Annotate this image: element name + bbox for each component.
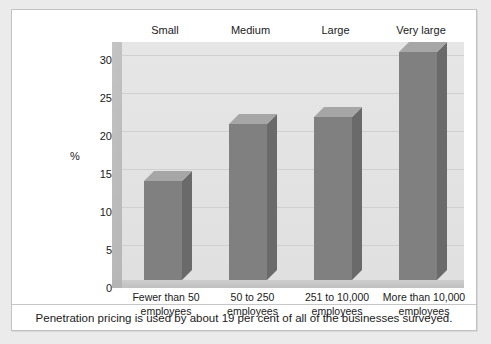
y-tick-0: 0 [84,283,112,293]
figure-panel: % 30 25 20 15 10 5 0 Small Medium Large … [11,9,477,331]
bar-medium-front [229,124,267,280]
y-tick-25: 25 [84,93,112,103]
bar-small[interactable] [144,181,182,280]
y-axis-title: % [70,150,80,162]
group-header-small: Small [122,20,208,40]
group-header-large: Large [293,20,378,40]
bar-large-side [352,107,362,280]
group-header-very-large: Very large [378,20,464,40]
bar-large[interactable] [314,117,352,280]
y-tick-5: 5 [84,245,112,255]
y-tick-20: 20 [84,131,112,141]
bar-very-large[interactable] [399,52,437,280]
bar-small-side [182,171,192,280]
plot-floor-left [112,280,122,288]
axis-wall-left [112,42,122,288]
plot-floor [122,280,464,288]
y-tick-10: 10 [84,207,112,217]
y-tick-15: 15 [84,169,112,179]
bar-large-front [314,117,352,280]
page-background: % 30 25 20 15 10 5 0 Small Medium Large … [0,0,491,344]
group-header-band: Small Medium Large Very large [122,20,464,43]
bar-small-front [144,181,182,280]
y-axis-ticks: 30 25 20 15 10 5 0 [84,10,112,298]
bar-chart: % 30 25 20 15 10 5 0 Small Medium Large … [12,10,476,298]
plot-area [112,42,464,288]
bar-very-large-side [437,42,447,280]
bar-medium-side [267,114,277,280]
y-tick-30: 30 [84,55,112,65]
bar-very-large-front [399,52,437,280]
bar-medium[interactable] [229,124,267,280]
group-header-medium: Medium [208,20,293,40]
figure-caption: Penetration pricing is used by about 19 … [12,304,476,330]
